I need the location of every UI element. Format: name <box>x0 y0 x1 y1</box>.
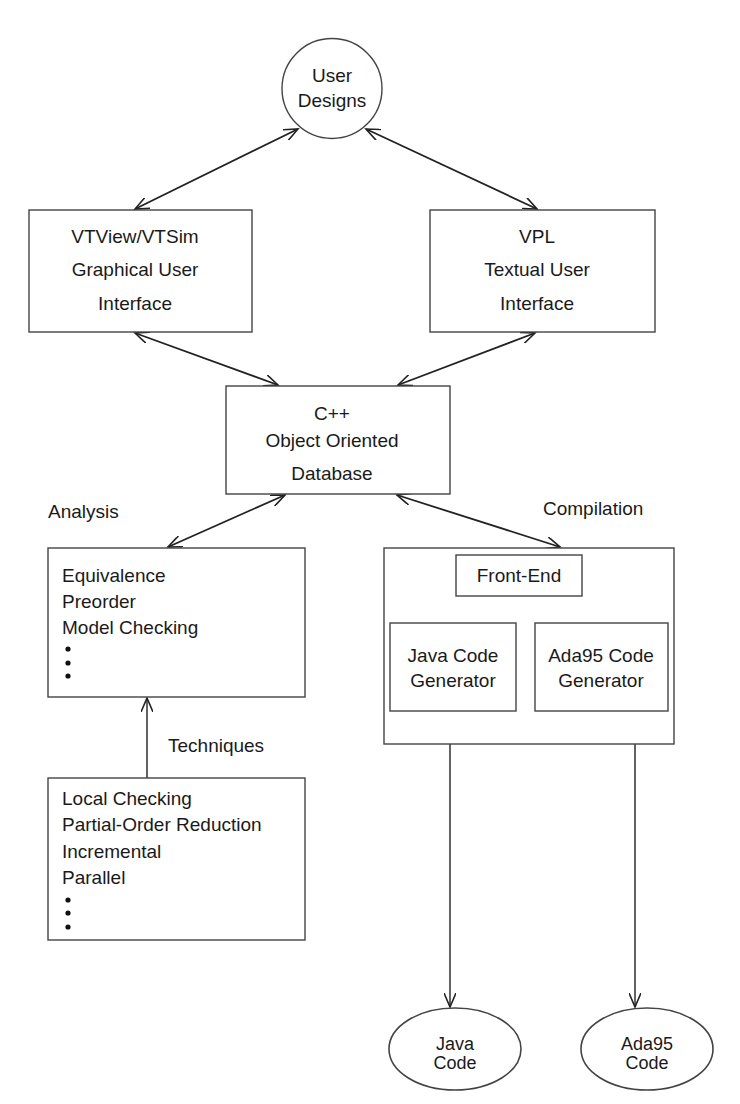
technique-item: Local Checking <box>62 788 192 809</box>
technique-item: Parallel <box>62 867 125 888</box>
edge-userdesigns-tui <box>366 129 537 209</box>
technique-item: Partial-Order Reduction <box>62 814 262 835</box>
node-label: Generator <box>410 670 496 691</box>
edge-database-analysis <box>168 495 285 547</box>
node-label: Textual User <box>484 259 590 280</box>
node-label: Graphical User <box>72 259 199 280</box>
node-java-generator: Java Code Generator <box>390 623 516 711</box>
node-label: Code <box>433 1053 476 1073</box>
node-label: User <box>312 65 353 86</box>
node-database: C++ Object Oriented Database <box>226 386 450 494</box>
edge-tui-database <box>398 333 535 385</box>
edge-gui-database <box>135 333 278 385</box>
node-label: Interface <box>500 293 574 314</box>
analysis-label: Analysis <box>48 501 119 522</box>
node-compilation: Front-End Java Code Generator Ada95 Code… <box>384 548 674 744</box>
node-label: Interface <box>98 293 172 314</box>
node-gui: VTView/VTSim Graphical User Interface <box>29 210 252 332</box>
node-analysis: Equivalence Preorder Model Checking <box>48 548 305 697</box>
techniques-label: Techniques <box>168 735 264 756</box>
node-label: VPL <box>519 226 555 247</box>
node-label: Ada95 <box>621 1034 673 1054</box>
node-ada-generator: Ada95 Code Generator <box>535 623 668 711</box>
node-label: Designs <box>298 90 367 111</box>
node-label: C++ <box>314 403 350 424</box>
technique-item: Incremental <box>62 841 161 862</box>
node-label: VTView/VTSim <box>71 226 198 247</box>
node-label: Generator <box>558 670 644 691</box>
node-label: Front-End <box>477 565 561 586</box>
node-techniques: Local Checking Partial-Order Reduction I… <box>48 778 305 940</box>
node-java-code: Java Code <box>389 1008 521 1090</box>
analysis-item: Preorder <box>62 591 137 612</box>
compilation-label: Compilation <box>543 498 643 519</box>
node-label: Java <box>436 1034 475 1054</box>
node-tui: VPL Textual User Interface <box>430 210 655 332</box>
edge-userdesigns-gui <box>135 129 298 209</box>
node-label: Code <box>625 1053 668 1073</box>
architecture-diagram: User Designs VTView/VTSim Graphical User… <box>0 0 740 1104</box>
analysis-item: Model Checking <box>62 617 198 638</box>
node-user-designs: User Designs <box>282 39 382 139</box>
node-label: Ada95 Code <box>548 645 654 666</box>
node-front-end: Front-End <box>456 555 582 596</box>
edge-database-compilation <box>397 495 560 547</box>
node-label: Database <box>291 463 372 484</box>
node-label: Java Code <box>408 645 499 666</box>
node-label: Object Oriented <box>265 430 398 451</box>
node-ada-code: Ada95 Code <box>581 1008 713 1090</box>
analysis-item: Equivalence <box>62 565 166 586</box>
